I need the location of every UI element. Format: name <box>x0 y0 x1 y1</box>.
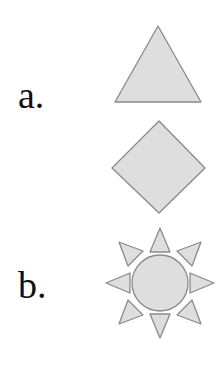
sun-ray-nw <box>119 242 143 266</box>
triangle-path <box>115 26 201 102</box>
sun-icon <box>100 222 220 344</box>
figure-row-c: c. <box>0 220 224 346</box>
diamond-path <box>112 121 205 213</box>
sun-core-circle <box>132 255 188 311</box>
diamond-shape <box>108 118 208 216</box>
diamond-icon <box>108 118 208 216</box>
triangle-icon <box>112 23 204 105</box>
sun-ray-w <box>106 273 130 293</box>
sun-shape <box>100 222 220 344</box>
sun-ray-s <box>150 314 170 338</box>
sun-ray-sw <box>119 300 143 324</box>
item-label-a: a. <box>18 76 44 114</box>
sun-ray-e <box>190 273 214 293</box>
triangle-shape <box>112 23 204 105</box>
sun-ray-ne <box>177 242 201 266</box>
sun-ray-se <box>177 300 201 324</box>
figure-page: a. b. c. <box>0 0 224 379</box>
figure-row-b: b. <box>0 114 224 218</box>
figure-row-a: a. <box>0 18 224 110</box>
sun-ray-n <box>150 228 170 252</box>
